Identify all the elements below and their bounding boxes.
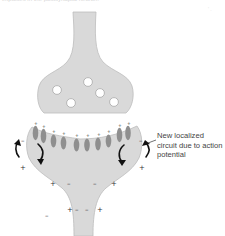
- annotation-label: New localized circuit due to action pote…: [157, 131, 223, 160]
- annotation-leader-line: [148, 140, 156, 143]
- svg-text:+: +: [107, 129, 111, 134]
- vesicle: [53, 86, 62, 95]
- presynaptic-terminal: [38, 12, 134, 113]
- svg-text:+: +: [97, 206, 103, 214]
- svg-text:+: +: [34, 121, 38, 126]
- svg-text:–: –: [93, 180, 97, 188]
- svg-text:+: +: [97, 132, 101, 137]
- svg-text:+: +: [42, 124, 46, 129]
- svg-text:+: +: [127, 121, 131, 126]
- svg-text:+: +: [20, 164, 26, 172]
- channel: [84, 139, 90, 152]
- vesicle: [96, 89, 105, 98]
- postsynaptic-neuron: + + + + + + + + + +: [27, 121, 142, 236]
- channel: [74, 139, 80, 152]
- channel: [33, 126, 39, 140]
- channel: [125, 126, 131, 140]
- channel: [41, 129, 47, 143]
- svg-text:+: +: [75, 133, 79, 138]
- arrow-right-outer-up-icon: [146, 143, 149, 157]
- channel: [95, 138, 101, 151]
- channel: [51, 135, 57, 148]
- svg-text:+: +: [52, 129, 56, 134]
- synapse-diagram: + + + + + + + + + + – + – + + – – +: [0, 0, 225, 236]
- svg-text:–: –: [45, 212, 49, 220]
- vesicle: [110, 98, 119, 107]
- channel: [117, 128, 123, 142]
- svg-text:+: +: [139, 164, 145, 172]
- vesicle: [84, 78, 93, 87]
- svg-text:+: +: [67, 206, 73, 214]
- svg-text:+: +: [50, 180, 56, 188]
- svg-text:+: +: [62, 131, 66, 136]
- channel: [61, 137, 67, 150]
- vesicle: [67, 99, 76, 108]
- svg-text:–: –: [67, 180, 71, 188]
- channel: [106, 135, 112, 148]
- svg-text:–: –: [75, 206, 79, 214]
- svg-text:+: +: [118, 123, 122, 128]
- svg-text:+: +: [86, 133, 90, 138]
- svg-text:+: +: [111, 180, 117, 188]
- svg-text:–: –: [85, 206, 89, 214]
- svg-text:–: –: [21, 137, 25, 145]
- svg-text:–: –: [139, 137, 143, 145]
